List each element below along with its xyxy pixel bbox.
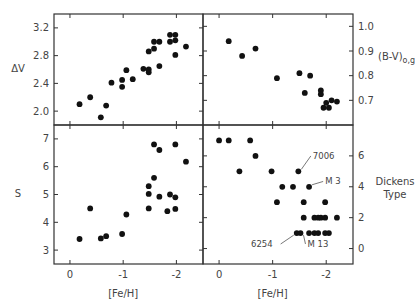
data-point	[326, 230, 332, 236]
data-point	[306, 230, 312, 236]
annotation-leader	[281, 235, 294, 244]
y-tick-label: 6	[43, 161, 49, 172]
data-point	[274, 75, 280, 81]
data-point	[226, 138, 232, 144]
data-point	[318, 91, 324, 97]
annotation-label: M 13	[307, 239, 328, 249]
data-point	[253, 46, 259, 52]
x-tick-label: -1	[268, 269, 278, 280]
data-point	[167, 192, 173, 198]
data-point	[151, 142, 157, 148]
data-point	[321, 105, 327, 111]
data-point	[98, 236, 104, 242]
data-point	[183, 44, 189, 50]
annotation-label: 7006	[313, 151, 335, 161]
y-tick-label: 0.7	[358, 95, 374, 106]
y-tick-label: 3	[43, 245, 49, 256]
data-point	[109, 80, 115, 86]
panel-frame-s	[54, 125, 203, 264]
data-point	[172, 32, 178, 38]
data-point	[307, 73, 313, 79]
data-point	[146, 191, 152, 197]
data-point	[269, 168, 275, 174]
data-point	[274, 199, 280, 205]
data-point	[119, 84, 125, 90]
data-point	[167, 32, 173, 38]
data-point	[301, 199, 307, 205]
y-tick-label: 3.2	[33, 22, 49, 33]
data-point	[290, 184, 296, 190]
data-point	[315, 230, 321, 236]
annotation-label: 6254	[251, 239, 273, 249]
data-point	[103, 103, 109, 109]
data-point	[329, 97, 335, 103]
data-point	[306, 184, 312, 190]
data-point	[322, 199, 328, 205]
y-tick-label: 4	[358, 181, 364, 192]
data-point	[156, 63, 162, 69]
data-point	[253, 153, 259, 159]
y-tick-label: 5	[43, 189, 49, 200]
data-point	[279, 184, 285, 190]
y-tick-label: 4	[43, 217, 49, 228]
x-tick-label: 0	[216, 269, 222, 280]
x-tick-label: -1	[118, 269, 128, 280]
panel-s: 0-1-234567S[Fe/H]	[15, 125, 203, 299]
y-axis-label: (B-V)o,g	[378, 51, 415, 65]
data-point	[98, 114, 104, 120]
data-point	[172, 194, 178, 200]
data-point	[156, 194, 162, 200]
y-tick-label: 2.4	[33, 78, 49, 89]
y-tick-label: 7	[43, 133, 49, 144]
y-tick-label: 2.8	[33, 50, 49, 61]
data-point	[298, 230, 304, 236]
y-tick-label: 0.9	[358, 46, 374, 57]
x-axis-label: [Fe/H]	[108, 288, 138, 299]
data-point	[172, 142, 178, 148]
data-point	[156, 39, 162, 45]
x-axis-label: [Fe/H]	[258, 288, 288, 299]
data-point	[151, 46, 157, 52]
y-tick-label: 2.0	[33, 106, 49, 117]
y-tick-label: 1.0	[358, 21, 374, 32]
annotation-leader	[301, 156, 310, 169]
panel-dickens: 0-1-20246DickensType[Fe/H]7006M 36254M 1…	[203, 125, 415, 299]
data-point	[164, 208, 170, 214]
data-point	[77, 236, 83, 242]
figure-four-panel-scatter: 2.02.42.83.2ΔV0.70.80.91.0(B-V)o,g0-1-23…	[0, 0, 418, 304]
y-axis-label: Dickens	[375, 176, 414, 187]
annotation-leader	[312, 181, 323, 184]
y-axis-label: S	[15, 188, 21, 199]
data-point	[247, 138, 253, 144]
data-point	[141, 66, 147, 72]
data-point	[334, 99, 340, 105]
data-point	[226, 38, 232, 44]
data-point	[103, 233, 109, 239]
data-point	[334, 215, 340, 221]
data-point	[123, 212, 129, 218]
data-point	[119, 231, 125, 237]
y-tick-label: 6	[358, 150, 364, 161]
data-point	[119, 77, 125, 83]
data-point	[323, 100, 329, 106]
data-point	[172, 37, 178, 43]
data-point	[183, 159, 189, 165]
data-point	[123, 67, 129, 73]
data-point	[151, 39, 157, 45]
y-tick-label: 0	[358, 243, 364, 254]
data-point	[146, 49, 152, 55]
y-axis-label: ΔV	[11, 63, 25, 74]
data-point	[239, 53, 245, 59]
y-axis-label-line2: Type	[383, 189, 407, 200]
data-point	[156, 147, 162, 153]
data-point	[167, 39, 173, 45]
data-point	[77, 101, 83, 107]
data-point	[130, 76, 136, 82]
data-point	[322, 215, 328, 221]
data-point	[87, 206, 93, 212]
data-point	[172, 52, 178, 58]
panel-dv: 2.02.42.83.2ΔV	[11, 14, 203, 125]
data-point	[302, 90, 308, 96]
data-point	[216, 138, 222, 144]
data-point	[237, 168, 243, 174]
